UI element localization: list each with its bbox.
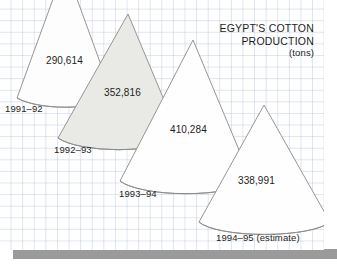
chart-panel: EGYPT'S COTTON PRODUCTION (tons) 290,614… <box>0 0 324 250</box>
category-label-1993-94: 1993–94 <box>119 188 157 199</box>
category-label-1991-92: 1991–92 <box>5 103 43 114</box>
category-label-1992-93: 1992–93 <box>54 144 92 155</box>
chart-unit-label: (tons) <box>220 47 314 60</box>
value-label-1991-92: 290,614 <box>46 55 83 66</box>
chart-title-block: EGYPT'S COTTON PRODUCTION (tons) <box>220 22 314 60</box>
cotton-production-infographic: EGYPT'S COTTON PRODUCTION (tons) 290,614… <box>0 0 337 264</box>
category-label-1994-95: 1994–95 (estimate) <box>216 232 300 243</box>
chart-title-line-1: EGYPT'S COTTON <box>220 22 314 35</box>
value-label-1992-93: 352,816 <box>104 87 141 98</box>
chart-title-line-2: PRODUCTION <box>220 35 314 48</box>
value-label-1993-94: 410,284 <box>170 124 207 135</box>
panel-shadow-bottom <box>13 249 337 259</box>
value-label-1994-95: 338,991 <box>238 175 275 186</box>
